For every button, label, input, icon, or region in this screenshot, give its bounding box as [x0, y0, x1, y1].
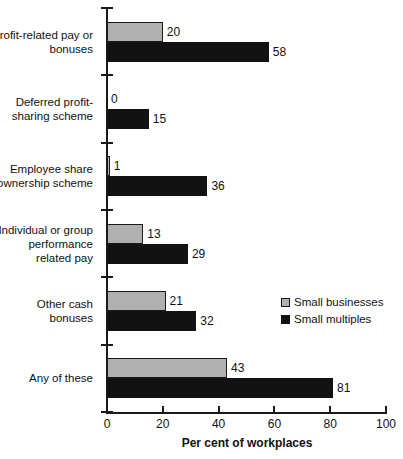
category-label-line: Any of these: [0, 371, 93, 385]
bar-dark: [107, 378, 333, 398]
y-axis-tick: [101, 276, 113, 278]
category-label-line: Other cash: [0, 297, 93, 311]
bar-light: [107, 358, 227, 378]
bar-value-label: 32: [200, 314, 213, 328]
legend-item-label: Small businesses: [294, 295, 383, 310]
bar-dark: [107, 109, 149, 129]
y-axis-tick: [101, 74, 113, 76]
bar-chart: 020406080100 Per cent of workplaces Prof…: [0, 0, 403, 459]
bar-dark: [107, 244, 188, 264]
category-label: Deferred profit-sharing scheme: [0, 95, 93, 123]
legend-item-label: Small multiples: [294, 312, 371, 327]
bar-value-label: 20: [167, 25, 180, 39]
x-axis-tick-label: 60: [254, 417, 294, 431]
category-label-line: bonuses: [0, 311, 93, 325]
bar-dark: [107, 42, 269, 62]
bar-light: [107, 22, 163, 42]
y-axis-tick: [101, 209, 113, 211]
x-axis-tick-label: 100: [366, 417, 403, 431]
x-axis-tick: [218, 406, 220, 414]
category-label: Profit-related pay orbonuses: [0, 28, 93, 56]
y-axis-tick: [101, 344, 113, 346]
category-label-line: Profit-related pay or: [0, 28, 93, 42]
bar-value-label: 81: [337, 381, 350, 395]
bar-value-label: 21: [170, 294, 183, 308]
category-label: Any of these: [0, 371, 93, 385]
bar-value-label: 15: [153, 112, 166, 126]
x-axis-tick: [273, 406, 275, 414]
category-label-line: performance: [0, 237, 93, 251]
category-label-line: sharing scheme: [0, 109, 93, 123]
category-label-line: Individual or group: [0, 223, 93, 237]
bar-value-label: 29: [192, 247, 205, 261]
bar-value-label: 13: [147, 227, 160, 241]
legend-item-small-multiples: Small multiples: [281, 312, 383, 327]
category-label-line: bonuses: [0, 42, 93, 56]
category-label-line: related pay: [0, 251, 93, 265]
x-axis-tick: [329, 406, 331, 414]
bar-light: [107, 156, 110, 176]
x-axis-tick: [385, 406, 387, 414]
y-axis-tick: [101, 7, 113, 9]
category-label: Individual or groupperformancerelated pa…: [0, 223, 93, 265]
bar-dark: [107, 311, 196, 331]
category-label: Employee shareownership scheme: [0, 162, 93, 190]
chart-legend: Small businesses Small multiples: [281, 295, 383, 329]
x-axis-tick-label: 0: [87, 417, 127, 431]
category-label-line: Deferred profit-: [0, 95, 93, 109]
category-label-line: Employee share: [0, 162, 93, 176]
x-axis-tick-label: 20: [143, 417, 183, 431]
bar-light: [107, 224, 143, 244]
legend-item-small-businesses: Small businesses: [281, 295, 383, 310]
x-axis-line: [107, 412, 387, 414]
bar-light: [107, 291, 166, 311]
y-axis-tick: [101, 142, 113, 144]
x-axis-tick-label: 80: [310, 417, 350, 431]
bar-value-label: 36: [211, 179, 224, 193]
category-label: Other cashbonuses: [0, 297, 93, 325]
bar-dark: [107, 176, 207, 196]
x-axis-title: Per cent of workplaces: [107, 436, 387, 450]
bar-value-label: 0: [111, 92, 118, 106]
x-axis-tick: [162, 406, 164, 414]
x-axis-tick-label: 40: [199, 417, 239, 431]
x-axis-tick: [106, 406, 108, 414]
legend-swatch-icon: [281, 315, 290, 324]
bar-value-label: 58: [273, 45, 286, 59]
category-label-line: ownership scheme: [0, 176, 93, 190]
bar-value-label: 1: [114, 159, 121, 173]
legend-swatch-icon: [281, 298, 290, 307]
bar-value-label: 43: [231, 361, 244, 375]
